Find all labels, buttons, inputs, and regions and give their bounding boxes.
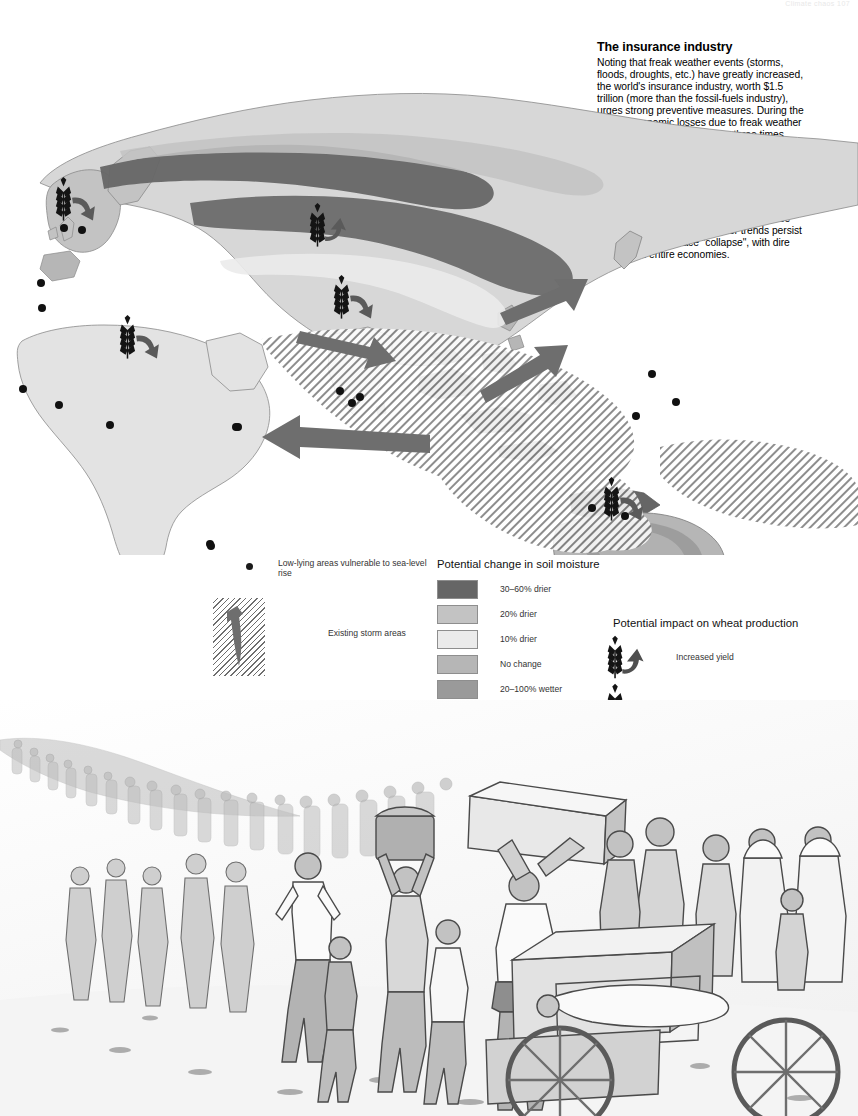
sea-level-dot xyxy=(60,224,68,232)
iberia-shape xyxy=(40,251,80,281)
soil-swatch-0 xyxy=(437,580,478,599)
legend-row: 10% drier xyxy=(437,630,607,655)
legend-row: Increased yield xyxy=(613,638,843,686)
legend-wheat-title: Potential impact on wheat production xyxy=(613,617,843,629)
illustration-graphic xyxy=(0,700,858,1116)
legend-row: No change xyxy=(437,655,607,680)
sea-level-dot xyxy=(55,401,63,409)
storm-hatch-swatch xyxy=(213,598,265,676)
refugee-column-illustration xyxy=(0,700,858,1116)
insurance-heading: The insurance industry xyxy=(597,40,805,54)
sea-level-dot xyxy=(336,387,344,395)
soil-label-3: No change xyxy=(500,659,542,669)
wheat-label-0: Increased yield xyxy=(676,652,734,662)
sea-level-dot xyxy=(38,304,46,312)
legend-sea-level-label: Low-lying areas vulnerable to sea-level … xyxy=(278,558,428,579)
black-dot-icon xyxy=(246,563,253,570)
soil-swatch-3 xyxy=(437,655,478,674)
sea-level-dot xyxy=(356,393,364,401)
soil-moisture-map xyxy=(0,55,858,555)
soil-swatch-1 xyxy=(437,605,478,624)
sea-level-dot xyxy=(78,226,86,234)
map-graphic xyxy=(0,55,858,555)
sea-level-dot xyxy=(207,542,215,550)
sea-level-dot xyxy=(672,398,680,406)
wheat-up-arrow-icon xyxy=(604,634,650,680)
legend-soil-title: Potential change in soil moisture xyxy=(437,558,607,572)
soil-label-4: 20–100% wetter xyxy=(500,684,562,694)
sea-level-dot xyxy=(19,385,27,393)
hatched-arrow-icon xyxy=(213,598,265,676)
page-header: Climate chaos 107 xyxy=(700,0,850,10)
soil-label-0: 30–60% drier xyxy=(500,584,551,594)
legend-row: 20% drier xyxy=(437,605,607,630)
sea-level-dot xyxy=(648,370,656,378)
legend-row: 30–60% drier xyxy=(437,580,607,605)
sea-level-dot xyxy=(37,279,45,287)
soil-swatch-4 xyxy=(437,680,478,699)
soil-label-1: 20% drier xyxy=(500,609,537,619)
sea-level-dot xyxy=(348,399,356,407)
sea-level-dot xyxy=(632,412,640,420)
sea-level-dot xyxy=(621,512,629,520)
soil-swatch-2 xyxy=(437,630,478,649)
sea-level-dot xyxy=(588,504,596,512)
soil-label-2: 10% drier xyxy=(500,634,537,644)
sea-level-dot xyxy=(232,423,240,431)
sea-level-dot xyxy=(106,421,114,429)
legend-storm-label: Existing storm areas xyxy=(328,628,406,638)
